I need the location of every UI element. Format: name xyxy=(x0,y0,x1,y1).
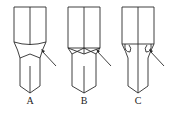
diagram: A B C xyxy=(0,0,174,118)
pointer-arrow-c xyxy=(150,51,164,66)
panel-label-c: C xyxy=(135,95,142,106)
pointer-arrow-a xyxy=(42,51,56,66)
panel-c-drawing xyxy=(122,7,164,93)
panel-b-drawing xyxy=(68,7,111,93)
panel-label-b: B xyxy=(81,95,88,106)
panel-label-a: A xyxy=(26,95,34,106)
panel-a-drawing xyxy=(14,7,56,93)
pointer-arrow-b xyxy=(97,51,111,66)
